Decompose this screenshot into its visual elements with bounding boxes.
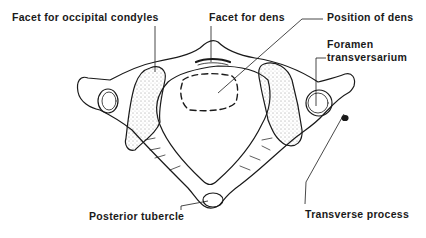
atlas-vertebra-drawing (0, 0, 426, 238)
dens-position-dashed (181, 74, 238, 111)
left-facet (125, 67, 165, 151)
label-foramen-line2: transversarium (327, 51, 407, 63)
label-facet-occipital-condyles: Facet for occipital condyles (12, 11, 159, 23)
leader-transverse-process (305, 114, 344, 204)
posterior-tubercle-shape (203, 193, 223, 207)
label-transverse-process: Transverse process (305, 208, 409, 220)
vertebral-foramen (157, 66, 270, 185)
atlas-outline (77, 40, 354, 208)
right-facet (259, 63, 302, 146)
left-foramen-transversarium (98, 89, 118, 113)
label-facet-for-dens: Facet for dens (209, 11, 285, 23)
dens-facet (196, 59, 230, 62)
label-position-of-dens: Position of dens (327, 11, 413, 23)
label-foramen-line1: Foramen (327, 38, 373, 50)
label-posterior-tubercle: Posterior tubercle (89, 210, 184, 222)
